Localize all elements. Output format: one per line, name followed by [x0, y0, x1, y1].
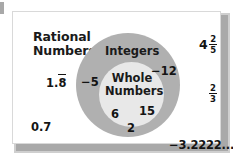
member-zero-point-seven: 0.7 [31, 120, 51, 134]
diagram-card: Rational Numbers Integers Whole Numbers … [12, 11, 221, 144]
repeating-decimal-prefix: 1. [46, 76, 58, 90]
fraction-denominator: 3 [209, 94, 217, 103]
member-negative-three-point-two-repeating: −3.2222... [169, 138, 233, 152]
mixed-whole-part: 4 [199, 37, 208, 52]
set-label-integers: Integers [105, 45, 159, 58]
fraction-numerator: 2 [209, 84, 217, 93]
repeating-decimal-overbar-digit: 8 [58, 76, 66, 90]
member-one-point-eight-repeating: 1.8 [46, 76, 66, 90]
whole-label-line2: Numbers [105, 84, 163, 98]
member-two: 2 [127, 121, 135, 135]
left-edge-sliver [0, 2, 4, 14]
fraction-denominator: 5 [209, 45, 217, 54]
member-negative-five: −5 [81, 75, 99, 89]
member-fifteen: 15 [139, 104, 155, 118]
member-negative-twelve: −12 [151, 64, 177, 78]
member-four-and-two-fifths: 4 2 5 [199, 35, 217, 54]
fraction-two-fifths: 2 5 [209, 35, 217, 54]
member-six: 6 [111, 107, 119, 121]
fraction-numerator: 2 [209, 35, 217, 44]
diagram-canvas: Rational Numbers Integers Whole Numbers … [0, 0, 233, 157]
rational-label-line1: Rational [33, 29, 91, 44]
fraction-two-thirds: 2 3 [209, 84, 217, 103]
member-two-thirds: 2 3 [209, 84, 217, 103]
